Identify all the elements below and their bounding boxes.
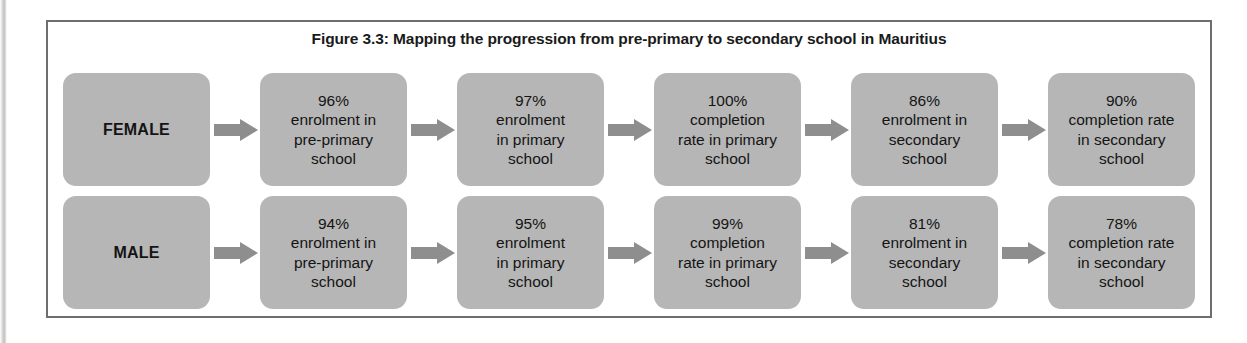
category-label-female: FEMALE: [103, 120, 170, 140]
stage-node-male-2: 95% enrolment in primary school: [457, 196, 604, 309]
figure-frame: Figure 3.3: Mapping the progression from…: [46, 20, 1212, 318]
stage-label-male-3: 99% completion rate in primary school: [678, 214, 777, 292]
arrow-right-icon: [608, 119, 652, 141]
arrow-right-icon: [411, 119, 455, 141]
arrow-right-icon: [608, 242, 652, 264]
stage-label-female-4: 86% enrolment in secondary school: [882, 91, 967, 169]
page-edge-artifact: [0, 0, 7, 343]
figure-title: Figure 3.3: Mapping the progression from…: [48, 30, 1210, 48]
stage-label-male-1: 94% enrolment in pre-primary school: [291, 214, 376, 292]
arrow-right-icon: [1002, 119, 1046, 141]
arrow-right-icon: [805, 242, 849, 264]
stage-node-female-4: 86% enrolment in secondary school: [851, 73, 998, 186]
flow-diagram: FEMALE 96% enrolment in pre-primary scho…: [63, 73, 1197, 309]
arrow-right-icon: [411, 242, 455, 264]
stage-node-male-1: 94% enrolment in pre-primary school: [260, 196, 407, 309]
stage-label-female-5: 90% completion rate in secondary school: [1069, 91, 1175, 169]
stage-label-female-3: 100% completion rate in primary school: [678, 91, 777, 169]
arrow-right-icon: [214, 242, 258, 264]
stage-node-male-5: 78% completion rate in secondary school: [1048, 196, 1195, 309]
category-node-male: MALE: [63, 196, 210, 309]
flow-row-female: FEMALE 96% enrolment in pre-primary scho…: [63, 73, 1197, 186]
category-label-male: MALE: [113, 243, 159, 263]
stage-label-female-1: 96% enrolment in pre-primary school: [291, 91, 376, 169]
flow-row-male: MALE 94% enrolment in pre-primary school…: [63, 196, 1197, 309]
stage-node-male-3: 99% completion rate in primary school: [654, 196, 801, 309]
stage-label-male-5: 78% completion rate in secondary school: [1069, 214, 1175, 292]
stage-label-male-4: 81% enrolment in secondary school: [882, 214, 967, 292]
stage-node-female-2: 97% enrolment in primary school: [457, 73, 604, 186]
stage-node-male-4: 81% enrolment in secondary school: [851, 196, 998, 309]
category-node-female: FEMALE: [63, 73, 210, 186]
arrow-right-icon: [805, 119, 849, 141]
stage-node-female-3: 100% completion rate in primary school: [654, 73, 801, 186]
stage-label-male-2: 95% enrolment in primary school: [496, 214, 565, 292]
arrow-right-icon: [1002, 242, 1046, 264]
stage-node-female-1: 96% enrolment in pre-primary school: [260, 73, 407, 186]
stage-node-female-5: 90% completion rate in secondary school: [1048, 73, 1195, 186]
arrow-right-icon: [214, 119, 258, 141]
stage-label-female-2: 97% enrolment in primary school: [496, 91, 565, 169]
